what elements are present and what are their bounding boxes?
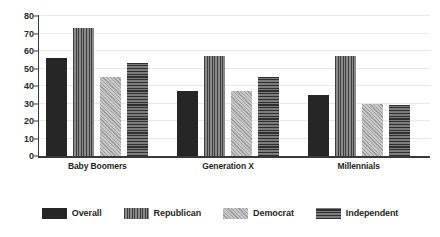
y-axis-line (38, 15, 39, 157)
legend-label: Independent (346, 208, 398, 218)
y-axis-tick-label: 70 (4, 29, 34, 38)
y-axis-tickmark (34, 33, 38, 34)
y-axis-tickmark (34, 138, 38, 139)
y-axis-tickmark (34, 103, 38, 104)
legend-swatch-icon (42, 208, 67, 219)
y-axis-tickmark (34, 51, 38, 52)
legend-swatch-icon (223, 208, 248, 219)
x-axis-category-label: Baby Boomers (68, 161, 127, 171)
y-axis-tickmark (34, 68, 38, 69)
legend-swatch-icon (124, 208, 149, 219)
x-axis-category-labels: Baby BoomersGeneration XMillennials (38, 161, 430, 177)
y-axis-tickmark (34, 86, 38, 87)
y-axis-tick-label: 80 (4, 12, 34, 21)
y-axis-tick-label: 10 (4, 134, 34, 143)
bar (258, 77, 279, 156)
y-axis-tick-label: 50 (4, 64, 34, 73)
legend-label: Democrat (253, 208, 294, 218)
bar (73, 28, 94, 156)
chart-legend: OverallRepublicanDemocratIndependent (0, 203, 440, 223)
bar-group (46, 16, 148, 156)
bar (308, 95, 329, 156)
legend-label: Republican (154, 208, 202, 218)
y-axis-ticks: 01020304050607080 (0, 16, 34, 156)
bar-chart: 01020304050607080 Baby BoomersGeneration… (0, 0, 440, 237)
y-axis-tick-label: 30 (4, 99, 34, 108)
bar (127, 63, 148, 156)
y-axis-tick-label: 40 (4, 82, 34, 91)
plot-area (38, 16, 430, 156)
bar (231, 91, 252, 156)
x-axis-line (38, 156, 430, 158)
x-axis-category-label: Millennials (337, 161, 379, 171)
x-axis-category-label: Generation X (202, 161, 254, 171)
legend-label: Overall (72, 208, 102, 218)
y-axis-tickmark (34, 156, 38, 157)
y-axis-tickmark (34, 16, 38, 17)
y-axis-tick-label: 20 (4, 117, 34, 126)
y-axis-tick-label: 60 (4, 47, 34, 56)
bar-group (308, 16, 410, 156)
bar (362, 104, 383, 157)
bar (335, 56, 356, 156)
bar (389, 105, 410, 156)
bar (177, 91, 198, 156)
y-axis-tickmark (34, 121, 38, 122)
legend-item[interactable]: Democrat (223, 208, 294, 219)
bar (46, 58, 67, 156)
legend-item[interactable]: Republican (124, 208, 202, 219)
bar (204, 56, 225, 156)
bar-group (177, 16, 279, 156)
legend-item[interactable]: Independent (316, 208, 398, 219)
legend-swatch-icon (316, 208, 341, 219)
bar (100, 77, 121, 156)
y-axis-tick-label: 0 (4, 152, 34, 161)
legend-item[interactable]: Overall (42, 208, 102, 219)
